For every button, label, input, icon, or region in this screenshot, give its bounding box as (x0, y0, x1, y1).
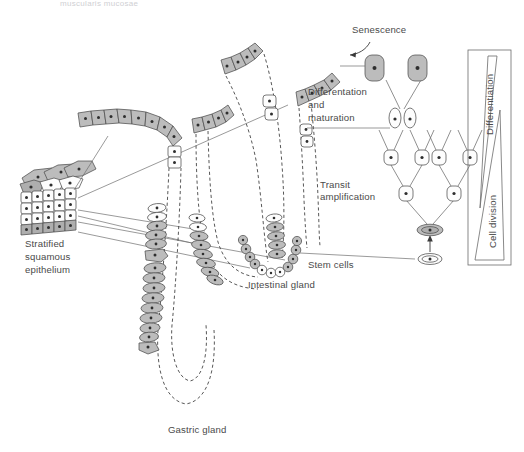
senescence-arrowhead (350, 52, 356, 57)
leader-lines (74, 105, 288, 268)
transit-amplification-label-line2: amplification (320, 191, 375, 202)
stratified-label-line1: Stratified (25, 238, 64, 249)
intestinal-surface-epithelium-left (192, 105, 234, 133)
stratified-label-line2: squamous (25, 251, 71, 262)
cell-division-axis-label: Cell division (487, 195, 498, 248)
intestinal-gland: Intestinal gland (189, 43, 315, 290)
diagram-canvas: muscularis mucosae (0, 0, 524, 452)
stratified-squamous-epithelium-block (20, 161, 96, 235)
intestinal-surface-epithelium-right (221, 43, 263, 74)
transit-amplification-label-line1: Transit (320, 179, 350, 190)
epithelial-renewal-diagram: muscularis mucosae (0, 0, 524, 452)
differentiation-maturation-label: Differentation and maturation (307, 86, 390, 128)
senescence-group: Senescence (350, 24, 406, 58)
stratified-squamous-epithelium-label: Stratified squamous epithelium (25, 238, 71, 275)
gastric-gland-label: Gastric gland (168, 424, 226, 435)
gastric-gland-cells (139, 203, 168, 354)
maturation-label-line3: maturation (308, 112, 355, 123)
differentiation-axis-label: Differentiation (484, 74, 495, 135)
differentiation-label-line1: Differentation (308, 86, 367, 97)
stratified-label-line3: epithelium (25, 264, 70, 275)
partial-header-text: muscularis mucosae (60, 0, 139, 8)
differentiation-label-line2: and (308, 99, 324, 110)
intestinal-gland-label: Intestinal gland (248, 279, 315, 290)
stem-cells-label: Stem cells (308, 259, 354, 270)
senescence-label: Senescence (352, 24, 406, 35)
